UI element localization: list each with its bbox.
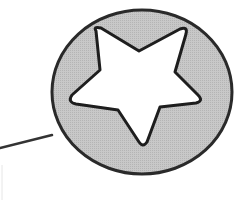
diagram-canvas xyxy=(0,0,244,207)
leader-line xyxy=(0,135,52,148)
diagram-svg xyxy=(0,0,244,207)
